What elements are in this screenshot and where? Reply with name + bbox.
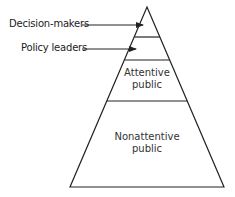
tier-nonattentive-public: Nonattentive public: [107, 131, 187, 155]
label-decision-makers: Decision-makers: [9, 18, 89, 29]
tier-nonattentive-line1: Nonattentive: [107, 131, 187, 143]
pyramid-outline: [70, 7, 224, 187]
label-policy-leaders: Policy leaders: [21, 42, 87, 53]
pyramid-diagram: [0, 0, 235, 197]
tier-attentive-line2: public: [117, 79, 177, 91]
tier-nonattentive-line2: public: [107, 143, 187, 155]
tier-attentive-public: Attentive public: [117, 67, 177, 91]
tier-attentive-line1: Attentive: [117, 67, 177, 79]
